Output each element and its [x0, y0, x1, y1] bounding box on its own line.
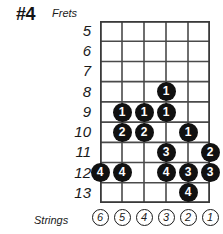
finger-dot: 1 — [113, 103, 132, 122]
finger-dot: 4 — [113, 163, 132, 182]
finger-dot: 4 — [91, 163, 110, 182]
frets-axis-caption: Frets — [52, 7, 77, 19]
string-number-label: 4 — [136, 209, 153, 226]
fret-number-label: 8 — [83, 82, 91, 102]
finger-dot: 4 — [157, 163, 176, 182]
fret-number-label: 12 — [74, 163, 91, 183]
fret-number-label: 6 — [83, 41, 91, 61]
finger-dot: 2 — [135, 123, 154, 142]
fret-number-label: 9 — [83, 102, 91, 122]
fretboard-grid: 111122132444334 — [100, 21, 210, 203]
finger-dot-layer: 111122132444334 — [100, 21, 210, 203]
finger-dot: 1 — [157, 82, 176, 101]
finger-dot: 3 — [201, 163, 220, 182]
string-number-label: 1 — [202, 209, 219, 226]
string-number-label: 6 — [92, 209, 109, 226]
fretboard-diagram: #4 Frets 5678910111213 111122132444334 6… — [0, 0, 223, 234]
fret-number-label: 10 — [74, 122, 91, 142]
fret-number-label: 5 — [83, 21, 91, 41]
finger-dot: 3 — [179, 163, 198, 182]
fret-number-label: 7 — [83, 61, 91, 81]
fret-number-label: 13 — [74, 183, 91, 203]
finger-dot: 2 — [201, 143, 220, 162]
string-number-label: 2 — [180, 209, 197, 226]
string-number-label: 3 — [158, 209, 175, 226]
strings-axis-caption: Strings — [34, 214, 68, 226]
finger-dot: 1 — [135, 103, 154, 122]
finger-dot: 3 — [157, 143, 176, 162]
finger-dot: 1 — [179, 123, 198, 142]
string-number-label: 5 — [114, 209, 131, 226]
string-number-row: 654321 — [100, 207, 210, 229]
page-title: #4 — [16, 5, 35, 23]
fret-number-gutter: 5678910111213 — [55, 21, 95, 203]
fret-number-label: 11 — [75, 142, 91, 162]
finger-dot: 2 — [113, 123, 132, 142]
finger-dot: 1 — [157, 103, 176, 122]
finger-dot: 4 — [179, 183, 198, 202]
